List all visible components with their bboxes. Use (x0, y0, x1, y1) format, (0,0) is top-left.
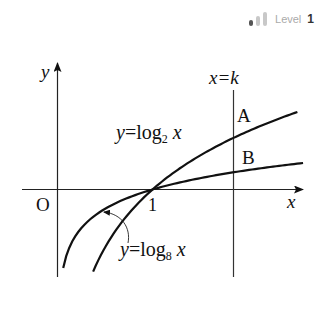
point-b-label: B (242, 147, 255, 168)
vertical-line-label-text: x=k (208, 67, 239, 88)
curve-log2-x: x (168, 121, 182, 143)
point-a-label: A (237, 105, 251, 126)
tick-one-label: 1 (148, 195, 157, 215)
curve-log8-y: y (118, 238, 129, 261)
vertical-line-label: x=k (208, 67, 239, 88)
curve-log2-eq: =log (125, 121, 162, 144)
origin-label: O (36, 194, 50, 215)
curve-log8-eq: =log (129, 238, 166, 261)
axis-y-label: y (39, 61, 50, 82)
curve-log2-label: y=log2 x (114, 121, 182, 146)
axis-x-label: x (286, 191, 296, 212)
log-graph-diagram: y x O 1 x=k A B y=log2 x y=log8 x (0, 0, 330, 314)
curve-log2-y: y (114, 121, 125, 144)
curve-log8-label: y=log8 x (118, 238, 186, 263)
curve-log8-x: x (172, 238, 186, 260)
